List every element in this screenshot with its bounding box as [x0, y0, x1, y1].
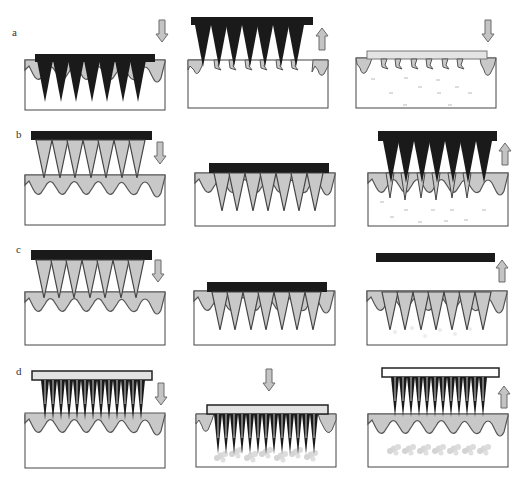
arrow-up-icon	[498, 386, 510, 408]
panel-b2	[195, 163, 335, 226]
arrow-down-icon	[152, 260, 164, 282]
panel-b1	[25, 131, 166, 225]
arrow-up-icon	[316, 28, 328, 50]
panel-a3	[356, 20, 496, 108]
arrow-down-icon	[155, 383, 167, 405]
arrow-down-icon	[482, 20, 494, 42]
panel-c2	[194, 282, 335, 345]
panel-c3	[367, 253, 508, 345]
arrow-down-icon	[154, 142, 166, 164]
arrow-up-icon	[499, 143, 511, 165]
panel-a1	[25, 20, 168, 110]
panel-d3	[368, 368, 510, 467]
microneedle-diagram	[0, 0, 523, 486]
arrow-down-icon	[156, 20, 168, 42]
panel-a2	[188, 17, 328, 108]
arrow-up-icon	[496, 260, 508, 282]
panel-c1	[25, 250, 165, 345]
arrow-down-icon	[263, 369, 275, 391]
panel-d2	[196, 369, 336, 467]
panel-d1	[25, 371, 167, 468]
panel-b3	[368, 131, 511, 226]
